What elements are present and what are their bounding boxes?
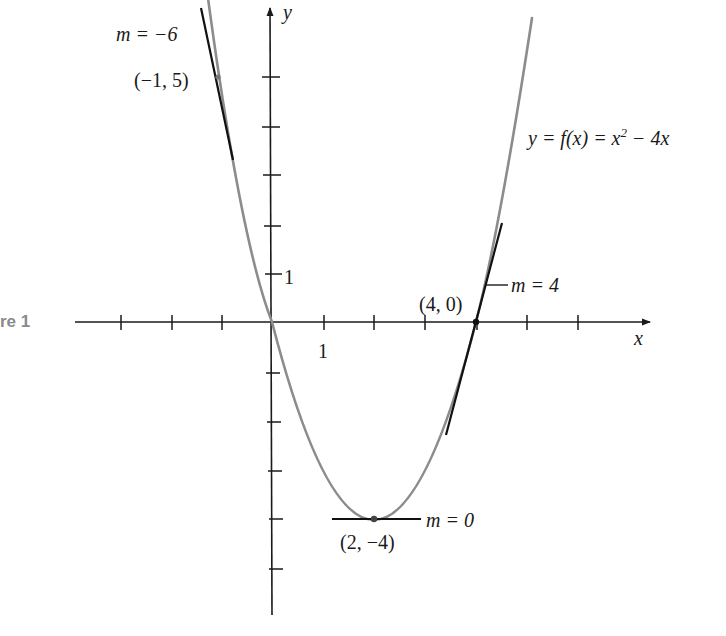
point-4-0 [473, 319, 479, 325]
function-label: y = f(x) = x2 − 4x [528, 128, 669, 148]
tangent-line-neg1-5 [201, 8, 233, 160]
point-neg1-5 [215, 74, 220, 79]
point-2-neg4 [371, 516, 377, 522]
slope-label-0: m = 0 [426, 510, 474, 530]
figure-canvas: re 1 y x 1 1 y = f(x) = x2 − 4x m = −6 (… [0, 0, 726, 636]
y-axis [270, 8, 272, 615]
parabola-curve [206, 0, 532, 520]
x-axis-label: x [634, 328, 643, 348]
slope-label-neg6: m = −6 [116, 24, 177, 44]
point-label-4-0: (4, 0) [419, 294, 462, 314]
function-label-prefix: y = f(x) = x [528, 127, 621, 149]
y-axis-label: y [283, 2, 292, 22]
tangent-line-4-0 [446, 223, 502, 435]
point-label-2-neg4: (2, −4) [340, 532, 395, 552]
point-label-neg1-5: (−1, 5) [134, 70, 189, 90]
function-label-suffix: − 4x [627, 127, 669, 149]
y-tick-label-1: 1 [284, 267, 294, 287]
figure-caption: re 1 [0, 312, 30, 332]
slope-label-4: m = 4 [511, 275, 559, 295]
x-tick-label-1: 1 [318, 341, 328, 361]
